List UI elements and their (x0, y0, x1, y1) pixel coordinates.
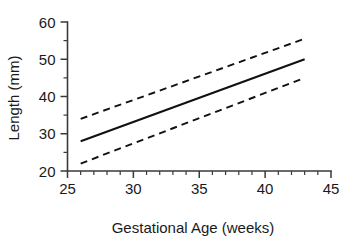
chart-background (0, 0, 352, 245)
x-axis-title: Gestational Age (weeks) (112, 219, 275, 236)
y-tick-label: 30 (39, 125, 56, 142)
chart-canvas: 2530354045 2030405060 Gestational Age (w… (0, 0, 352, 245)
y-tick-label: 40 (39, 88, 56, 105)
chart-figure: 2530354045 2030405060 Gestational Age (w… (0, 0, 352, 245)
y-tick-label: 60 (39, 14, 56, 31)
y-tick-label: 20 (39, 163, 56, 180)
x-tick-label: 35 (191, 180, 208, 197)
x-tick-label: 40 (257, 180, 274, 197)
x-tick-label: 30 (125, 180, 142, 197)
x-tick-label: 45 (323, 180, 340, 197)
x-tick-label: 25 (59, 180, 76, 197)
y-tick-label: 50 (39, 51, 56, 68)
y-axis-title: Length (mm) (5, 55, 22, 140)
